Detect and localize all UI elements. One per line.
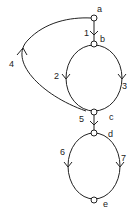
- edge-label-6: 6: [60, 148, 65, 157]
- node-label-a: a: [97, 5, 102, 14]
- node-label-b: b: [100, 35, 105, 44]
- node-d: [91, 130, 97, 136]
- node-c: [91, 109, 97, 115]
- edge-label-2: 2: [54, 72, 59, 81]
- node-e: [91, 197, 97, 203]
- node-label-d: d: [108, 130, 113, 139]
- node-label-e: e: [103, 200, 108, 209]
- edge-label-1: 1: [84, 29, 89, 38]
- graph-diagram: [0, 0, 134, 212]
- node-label-c: c: [109, 113, 114, 122]
- edge-4: [22, 18, 91, 111]
- edges-6-7: [68, 133, 120, 199]
- edge-label-5: 5: [79, 115, 84, 124]
- node-b: [91, 41, 97, 47]
- node-a: [91, 15, 97, 21]
- edges-2-3: [66, 45, 122, 111]
- edge-label-4: 4: [9, 60, 14, 69]
- edge-label-3: 3: [122, 82, 127, 91]
- edge-label-7: 7: [121, 154, 126, 163]
